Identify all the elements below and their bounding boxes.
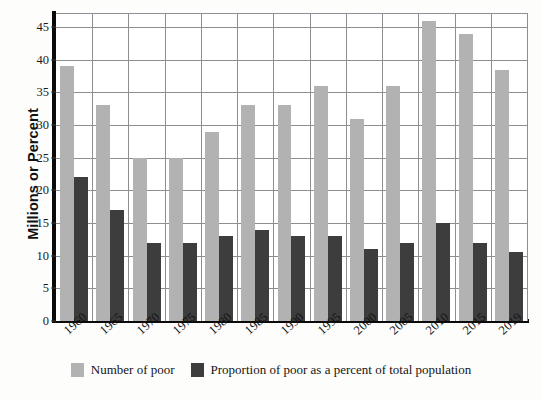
bar-proportion-of-poor bbox=[74, 177, 88, 321]
bar-number-of-poor bbox=[60, 66, 74, 321]
bar-number-of-poor bbox=[205, 132, 219, 321]
bar-proportion-of-poor bbox=[255, 230, 269, 321]
bar-proportion-of-poor bbox=[436, 223, 450, 321]
bar-number-of-poor bbox=[96, 105, 110, 321]
bar-number-of-poor bbox=[133, 158, 147, 321]
bar-chart: Millions or Percent 051015202530354045 1… bbox=[0, 0, 542, 399]
y-axis-tick-label: 25 bbox=[37, 150, 50, 165]
y-axis-tick-label: 20 bbox=[37, 183, 50, 198]
legend-label: Proportion of poor as a percent of total… bbox=[211, 362, 472, 378]
bar-proportion-of-poor bbox=[328, 236, 342, 321]
y-axis-tick-label: 40 bbox=[37, 52, 50, 67]
y-axis-tick-label: 30 bbox=[37, 118, 50, 133]
y-axis-tick-label: 35 bbox=[37, 85, 50, 100]
chart-legend: Number of poorProportion of poor as a pe… bbox=[0, 362, 542, 378]
bar-number-of-poor bbox=[241, 105, 255, 321]
legend-item: Proportion of poor as a percent of total… bbox=[191, 362, 472, 378]
bar-group bbox=[92, 14, 128, 321]
bar-group bbox=[201, 14, 237, 321]
bar-proportion-of-poor bbox=[110, 210, 124, 321]
bar-number-of-poor bbox=[169, 158, 183, 321]
legend-label: Number of poor bbox=[91, 362, 175, 378]
bar-group bbox=[491, 14, 527, 321]
bar-proportion-of-poor bbox=[400, 243, 414, 321]
bar-group bbox=[273, 14, 309, 321]
bar-group bbox=[455, 14, 491, 321]
y-axis-tick-label: 10 bbox=[37, 248, 50, 263]
bar-number-of-poor bbox=[278, 105, 292, 321]
bar-group bbox=[56, 14, 92, 321]
y-axis-title: Millions or Percent bbox=[25, 79, 41, 269]
legend-swatch-icon bbox=[71, 363, 84, 377]
legend-item: Number of poor bbox=[71, 362, 175, 378]
bar-number-of-poor bbox=[314, 86, 328, 321]
bar-proportion-of-poor bbox=[291, 236, 305, 321]
bar-group bbox=[310, 14, 346, 321]
legend-swatch-icon bbox=[191, 363, 204, 377]
bar-group bbox=[346, 14, 382, 321]
bar-number-of-poor bbox=[386, 86, 400, 321]
bar-proportion-of-poor bbox=[183, 243, 197, 321]
bar-number-of-poor bbox=[459, 34, 473, 321]
bar-group bbox=[165, 14, 201, 321]
y-axis-tick-label: 0 bbox=[43, 314, 49, 329]
bar-number-of-poor bbox=[350, 119, 364, 321]
y-axis-tick-label: 45 bbox=[37, 20, 50, 35]
bar-group bbox=[237, 14, 273, 321]
y-axis-tick-label: 15 bbox=[37, 216, 50, 231]
plot-area: 051015202530354045 bbox=[56, 13, 528, 321]
bar-group bbox=[382, 14, 418, 321]
bar-group bbox=[418, 14, 454, 321]
bar-group bbox=[128, 14, 164, 321]
bar-number-of-poor bbox=[422, 21, 436, 321]
bar-number-of-poor bbox=[495, 70, 509, 321]
y-axis-tick-label: 5 bbox=[43, 281, 49, 296]
bar-proportion-of-poor bbox=[219, 236, 233, 321]
